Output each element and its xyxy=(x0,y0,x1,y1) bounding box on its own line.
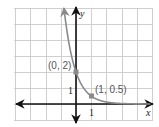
exponential-graph: (0, 2) (1, 0.5) 1 1 y x xyxy=(0,0,159,127)
point-label-1-0.5: (1, 0.5) xyxy=(95,84,127,95)
x-axis-label: x xyxy=(145,107,151,118)
y-axis-label: y xyxy=(79,8,85,19)
point-label-0-2: (0, 2) xyxy=(48,60,71,71)
point-marker-0-2 xyxy=(74,70,79,75)
y-tick-label: 1 xyxy=(68,85,73,96)
point-marker-1-0.5 xyxy=(89,94,94,99)
x-tick-label: 1 xyxy=(89,107,94,118)
